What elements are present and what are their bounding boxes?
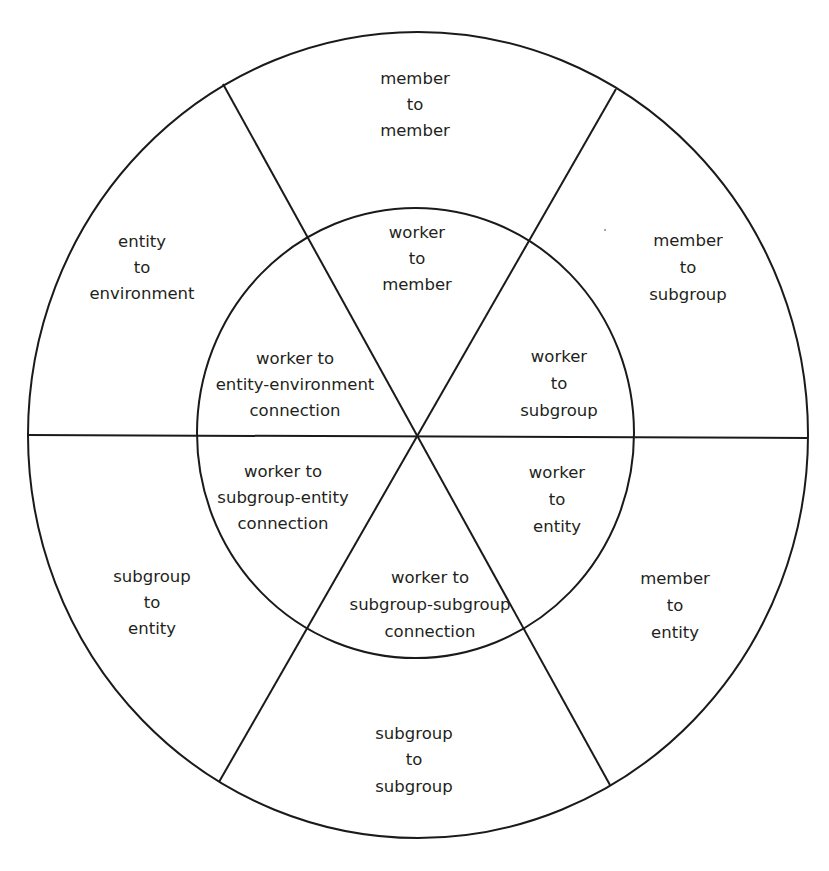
segment-member-to-member: member to member <box>380 69 450 140</box>
diagonal-divider-left-to-right <box>223 84 610 785</box>
segment-label-line: entity <box>651 623 699 642</box>
segment-label-line: subgroup <box>375 724 452 743</box>
segment-label-line: member <box>640 569 710 588</box>
segment-label-line: to <box>680 258 697 277</box>
segment-label-line: environment <box>89 284 195 303</box>
print-speck <box>604 229 606 231</box>
segment-label-line: entity <box>533 517 581 536</box>
segment-label-line: worker <box>529 463 585 482</box>
segment-label-line: subgroup <box>113 567 190 586</box>
segment-label-line: entity-environment <box>216 375 375 394</box>
segment-subgroup-to-entity: subgroup to entity <box>113 567 190 638</box>
segment-label-line: worker to <box>244 462 322 481</box>
segment-entity-to-environment: entity to environment <box>89 232 195 303</box>
segment-member-to-subgroup: member to subgroup <box>649 231 726 304</box>
segment-label-line: to <box>406 750 423 769</box>
segment-label-line: member <box>380 69 450 88</box>
segment-label-line: subgroup <box>520 401 597 420</box>
segment-worker-to-subgroup-entity-connection: worker to subgroup-entity connection <box>217 462 349 533</box>
relationship-wheel-diagram: member to member member to subgroup memb… <box>0 0 829 871</box>
segment-label-line: connection <box>238 514 329 533</box>
segment-label-line: entity <box>128 619 176 638</box>
segment-label-line: worker <box>531 347 587 366</box>
segment-label-line: connection <box>250 401 341 420</box>
segment-label-line: subgroup-subgroup <box>350 595 511 614</box>
segment-label-line: connection <box>385 622 476 641</box>
segment-label-line: subgroup-entity <box>217 488 349 507</box>
segment-label-line: to <box>144 593 161 612</box>
segment-label-line: member <box>382 275 452 294</box>
segment-label-line: worker <box>389 223 445 242</box>
segment-member-to-entity: member to entity <box>640 569 710 642</box>
segment-label-line: worker to <box>391 568 469 587</box>
segment-label-line: to <box>667 596 684 615</box>
segment-label-line: subgroup <box>649 285 726 304</box>
segment-label-line: to <box>549 490 566 509</box>
segment-worker-to-subgroup-subgroup-connection: worker to subgroup-subgroup connection <box>350 568 511 641</box>
segment-label-line: member <box>653 231 723 250</box>
segment-label-line: to <box>551 374 568 393</box>
segment-label-line: entity <box>118 232 166 251</box>
segment-label-line: to <box>409 249 426 268</box>
segment-worker-to-subgroup: worker to subgroup <box>520 347 597 420</box>
segment-worker-to-entity: worker to entity <box>529 463 585 536</box>
segment-label-line: to <box>134 258 151 277</box>
segment-label-line: subgroup <box>375 777 452 796</box>
segment-label-line: member <box>380 121 450 140</box>
segment-worker-to-member: worker to member <box>382 223 452 294</box>
segment-label-line: worker to <box>256 349 334 368</box>
segment-label-line: to <box>407 95 424 114</box>
segment-worker-to-entity-environment-connection: worker to entity-environment connection <box>216 349 375 420</box>
segment-subgroup-to-subgroup: subgroup to subgroup <box>375 724 452 796</box>
